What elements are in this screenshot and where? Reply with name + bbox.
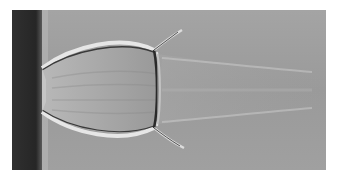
jet-flow-illustration (12, 10, 326, 170)
nozzle-wall (12, 10, 42, 170)
schlieren-photo (12, 10, 326, 170)
